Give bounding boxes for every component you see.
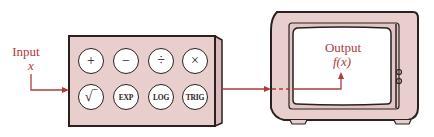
plus-button[interactable]: +	[78, 48, 104, 74]
minus-button[interactable]: −	[113, 48, 139, 74]
multiply-icon: ×	[191, 53, 199, 69]
output-function: f(x)	[322, 55, 362, 69]
square-root-icon: √‾	[85, 89, 97, 105]
diagram-graphics	[0, 0, 434, 137]
input-variable: x	[24, 59, 38, 73]
minus-icon: −	[122, 53, 130, 69]
log-button[interactable]: LOG	[148, 84, 174, 110]
tv-foot-left	[290, 120, 307, 124]
tv-foot-right	[394, 120, 411, 124]
square-root-button[interactable]: √‾	[78, 84, 104, 110]
multiply-button[interactable]: ×	[182, 48, 208, 74]
input-label: Input	[6, 45, 46, 59]
exp-button[interactable]: EXP	[113, 84, 139, 110]
exp-label: EXP	[119, 93, 133, 102]
log-label: LOG	[153, 93, 169, 102]
output-label: Output	[316, 41, 370, 55]
trig-label: TRIG	[186, 93, 204, 102]
function-machine-diagram: Input x Output f(x) + − ÷ × √‾ EXP LOG T…	[0, 0, 434, 137]
trig-button[interactable]: TRIG	[182, 84, 208, 110]
divide-button[interactable]: ÷	[148, 48, 174, 74]
divide-icon: ÷	[157, 53, 165, 69]
plus-icon: +	[87, 53, 95, 69]
input-arrow	[31, 74, 69, 93]
